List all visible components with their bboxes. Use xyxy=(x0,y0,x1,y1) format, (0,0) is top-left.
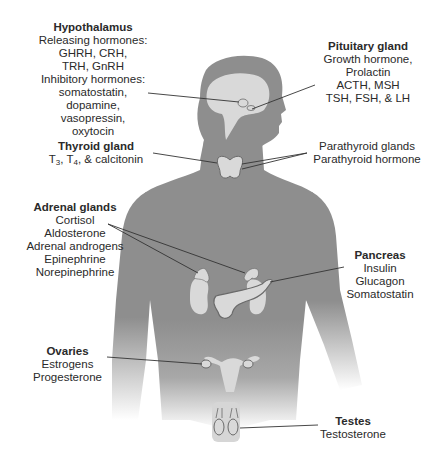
hypothalamus-gland xyxy=(238,99,248,107)
hypothalamus-line: somatostatin, xyxy=(38,86,148,99)
pancreas-title: Pancreas xyxy=(340,249,420,262)
parathyroid-line: Parathyroid glands xyxy=(312,140,422,153)
right-ovary xyxy=(243,360,253,368)
pituitary-label: Pituitary gland Growth hormone, Prolacti… xyxy=(318,40,418,105)
adrenal-line: Cortisol xyxy=(20,214,130,227)
adrenal-line: Epinephrine xyxy=(20,253,130,266)
testes-line: Testosterone xyxy=(318,428,388,441)
ovaries-label: Ovaries Estrogens Progesterone xyxy=(30,345,105,384)
testes-label: Testes Testosterone xyxy=(318,415,388,441)
pituitary-line: Growth hormone, xyxy=(318,53,418,66)
thyroid-gland xyxy=(217,156,242,178)
pancreas-label: Pancreas Insulin Glucagon Somatostatin xyxy=(340,249,420,301)
leader-testes xyxy=(240,425,318,428)
pancreas-line: Insulin xyxy=(340,262,420,275)
adrenal-label: Adrenal glands Cortisol Aldosterone Adre… xyxy=(20,201,130,279)
right-testis xyxy=(228,419,238,435)
adrenal-line: Adrenal androgens xyxy=(20,240,130,253)
thyroid-label: Thyroid gland T3, T4, & calcitonin xyxy=(40,140,152,166)
pituitary-line: ACTH, MSH xyxy=(318,79,418,92)
pancreas-line: Glucagon xyxy=(340,275,420,288)
hypothalamus-line: Inhibitory hormones: xyxy=(38,73,148,86)
ovaries-line: Progesterone xyxy=(30,371,105,384)
left-testis xyxy=(214,419,224,435)
hypothalamus-line: Releasing hormones: xyxy=(38,34,148,47)
pancreas-line: Somatostatin xyxy=(340,288,420,301)
hypothalamus-title: Hypothalamus xyxy=(38,21,148,34)
ovaries-title: Ovaries xyxy=(30,345,105,358)
pituitary-line: TSH, FSH, & LH xyxy=(318,92,418,105)
parathyroid-label: Parathyroid glands Parathyroid hormone xyxy=(312,140,422,166)
hypothalamus-line: vasopressin, xyxy=(38,112,148,125)
thyroid-title: Thyroid gland xyxy=(40,140,152,153)
adrenal-line: Aldosterone xyxy=(20,227,130,240)
parathyroid-line: Parathyroid hormone xyxy=(312,153,422,166)
hypothalamus-line: oxytocin xyxy=(38,125,148,138)
testes-title: Testes xyxy=(318,415,388,428)
hypothalamus-line: dopamine, xyxy=(38,99,148,112)
pituitary-line: Prolactin xyxy=(318,66,418,79)
hypothalamus-label: Hypothalamus Releasing hormones: GHRH, C… xyxy=(38,21,148,138)
hypothalamus-line: GHRH, CRH, xyxy=(38,47,148,60)
thyroid-hormones: T3, T4, & calcitonin xyxy=(40,153,152,166)
left-kidney xyxy=(190,277,208,314)
ovaries-line: Estrogens xyxy=(30,358,105,371)
adrenal-title: Adrenal glands xyxy=(20,201,130,214)
left-ovary xyxy=(201,360,211,368)
adrenal-line: Norepinephrine xyxy=(20,266,130,279)
pituitary-title: Pituitary gland xyxy=(318,40,418,53)
hypothalamus-line: TRH, GnRH xyxy=(38,60,148,73)
